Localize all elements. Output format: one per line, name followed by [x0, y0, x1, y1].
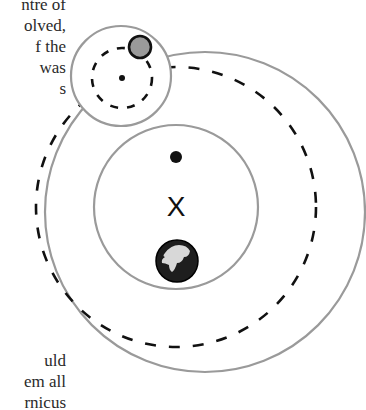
earth-icon	[156, 240, 198, 282]
equant-point-dot	[170, 151, 182, 163]
planet-icon	[129, 36, 151, 58]
epicycle-diagram: X	[0, 0, 366, 410]
epicycle-center-dot	[119, 75, 125, 81]
center-x-mark: X	[167, 191, 186, 222]
